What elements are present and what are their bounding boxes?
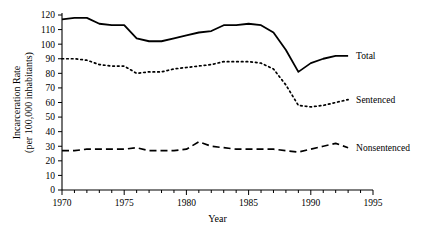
y-axis-tick-label: 20 xyxy=(46,156,56,166)
y-axis-tick-label: 80 xyxy=(46,69,56,79)
incarceration-rate-line-chart: 0102030405060708090100110120197019751980… xyxy=(0,0,443,235)
x-axis-tick-label: 1995 xyxy=(364,198,383,208)
y-axis-title-line-1: Incarceration Rate xyxy=(11,65,22,139)
x-axis-tick-label: 1975 xyxy=(115,198,134,208)
x-axis-tick-label: 1980 xyxy=(177,198,196,208)
y-axis-tick-label: 70 xyxy=(46,83,56,93)
chart-plot-area: 0102030405060708090100110120197019751980… xyxy=(0,0,443,235)
y-axis-tick-label: 40 xyxy=(46,127,56,137)
series-label-total: Total xyxy=(356,51,376,61)
y-axis-tick-label: 10 xyxy=(46,171,56,181)
series-line-total xyxy=(62,18,348,72)
series-line-nonsentenced xyxy=(62,142,348,152)
y-axis-tick-label: 50 xyxy=(46,112,56,122)
series-label-nonsentenced: Nonsentenced xyxy=(356,143,410,153)
series-label-sentenced: Sentenced xyxy=(356,95,395,105)
y-axis-tick-label: 120 xyxy=(41,10,56,20)
y-axis-tick-label: 110 xyxy=(41,25,55,35)
x-axis-tick-label: 1970 xyxy=(53,198,72,208)
y-axis-title-line-2: (per 100,000 inhabitants) xyxy=(23,52,35,153)
y-axis-tick-label: 90 xyxy=(46,54,56,64)
y-axis-tick-label: 100 xyxy=(41,40,56,50)
y-axis-tick-label: 30 xyxy=(46,142,56,152)
x-axis-tick-label: 1990 xyxy=(301,198,320,208)
x-axis-title: Year xyxy=(208,213,227,224)
x-axis-tick-label: 1985 xyxy=(239,198,258,208)
y-axis-tick-label: 0 xyxy=(50,185,55,195)
y-axis-tick-label: 60 xyxy=(46,98,56,108)
